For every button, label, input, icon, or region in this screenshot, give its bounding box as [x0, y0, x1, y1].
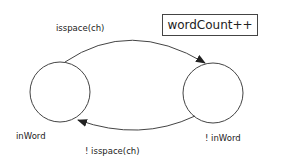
transition-isspace-arrow: [65, 40, 205, 63]
state-label-inword: inWord: [16, 132, 46, 141]
transition-label-not-isspace: ! isspace(ch): [85, 147, 140, 156]
transition-label-isspace: isspace(ch): [56, 24, 104, 33]
transition-not-isspace-arrow: [78, 116, 195, 130]
state-notinword-circle: [183, 63, 243, 123]
state-label-notinword: ! inWord: [205, 134, 241, 143]
action-box-wordcount: wordCount++: [162, 14, 258, 36]
state-inword-circle: [30, 62, 90, 122]
